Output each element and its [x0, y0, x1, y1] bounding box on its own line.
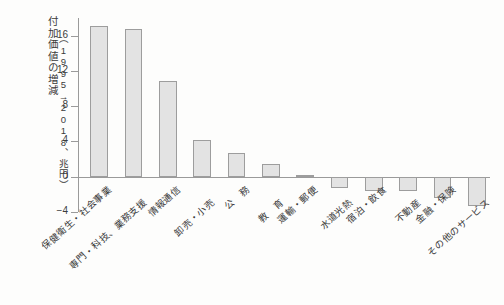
y-tick-label: 16 — [57, 29, 68, 40]
y-tick-label: 4 — [62, 134, 68, 145]
y-axis-title-group: （1995→2018、兆円） 付加価値の増減 — [18, 16, 68, 231]
x-axis-label-text: 卸売・小売 — [171, 195, 218, 239]
y-tick: 16 — [71, 36, 78, 37]
y-tick-label: −4 — [57, 205, 68, 216]
y-tick-label: 0 — [62, 170, 68, 181]
chart-figure: （1995→2018、兆円） 付加価値の増減 1612840−4 保健衛生・社会… — [0, 0, 504, 305]
y-tick: 12 — [71, 71, 78, 72]
y-tick-label: 12 — [57, 64, 68, 75]
y-tick: 0 — [71, 177, 78, 178]
y-tick: 4 — [71, 141, 78, 142]
y-tick-label: 8 — [62, 99, 68, 110]
y-tick: 8 — [71, 106, 78, 107]
x-axis-labels: 保健衛生・社会事業専門・科技、業務支援情報通信卸売・小売公 務教 育運輸・郵便水… — [78, 176, 490, 305]
bar — [90, 26, 108, 177]
y-axis-title: 付加価値の増減 — [46, 16, 57, 97]
